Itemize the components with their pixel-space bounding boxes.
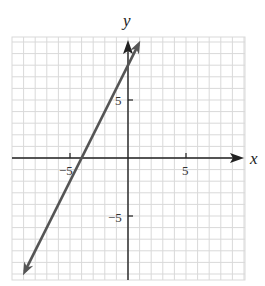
x-tick-label-neg5: −5 xyxy=(59,163,73,178)
y-axis-label: y xyxy=(121,11,131,30)
y-tick-label-5: 5 xyxy=(115,93,122,108)
x-axis-label: x xyxy=(249,149,258,168)
y-tick-label-neg5: −5 xyxy=(108,210,122,225)
x-tick-label-5: 5 xyxy=(182,163,189,178)
coordinate-plane: y x −5 5 5 −5 xyxy=(0,0,265,286)
